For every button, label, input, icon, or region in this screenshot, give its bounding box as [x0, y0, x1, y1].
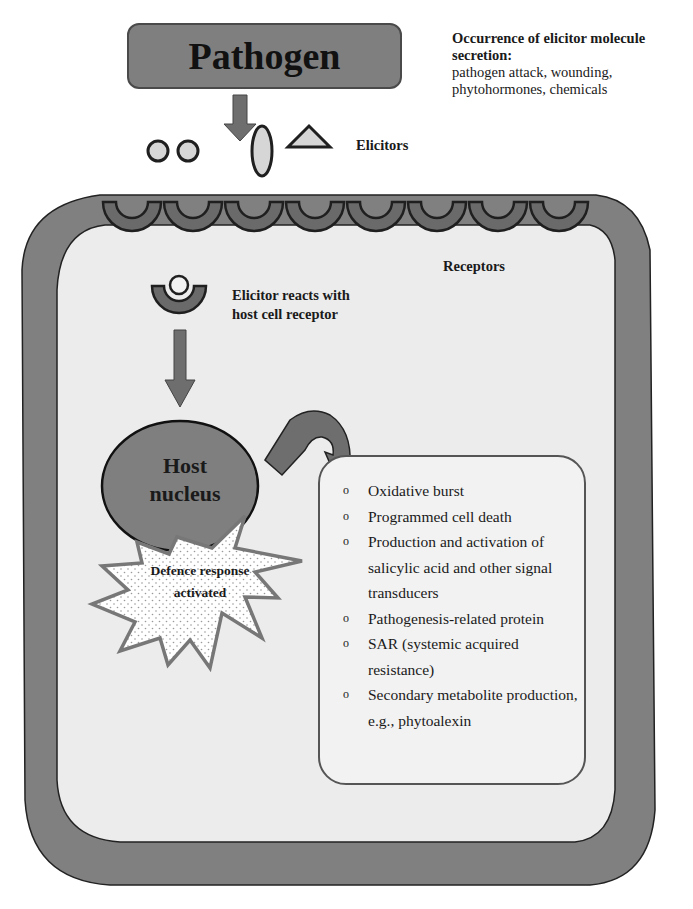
- defence-label: Defence response activated: [150, 560, 250, 604]
- elicitor-circle-icon: [178, 141, 198, 161]
- bullet-circle-icon: o: [343, 529, 349, 555]
- occurrence-title: Occurrence of elicitor molecule secretio…: [452, 30, 692, 64]
- pathogen-box: Pathogen: [127, 23, 402, 89]
- elicitor-ellipse-icon: [252, 126, 272, 176]
- response-item: oSecondary metabolite production, e.g., …: [340, 682, 580, 733]
- bullet-circle-icon: o: [343, 504, 349, 530]
- response-item: oSAR (systemic acquired resistance): [340, 631, 580, 682]
- receptors-label: Receptors: [443, 258, 505, 275]
- bullet-circle-icon: o: [343, 606, 349, 632]
- response-item: oOxidative burst: [340, 478, 580, 504]
- pathogen-label: Pathogen: [189, 34, 341, 78]
- elicitor-triangle-icon: [288, 126, 330, 147]
- elicitor-circle-icon: [148, 141, 168, 161]
- bullet-circle-icon: o: [343, 631, 349, 657]
- bullet-circle-icon: o: [343, 682, 349, 708]
- response-list: oOxidative burst oProgrammed cell death …: [340, 478, 580, 733]
- bullet-circle-icon: o: [343, 478, 349, 504]
- response-item: oProduction and activation of salicylic …: [340, 529, 580, 606]
- reaction-label: Elicitor reacts with host cell receptor: [232, 286, 352, 324]
- arrow-down-icon: [224, 95, 256, 141]
- nucleus-label: Host nucleus: [125, 452, 245, 508]
- elicitors-label: Elicitors: [356, 137, 408, 154]
- occurrence-body: pathogen attack, wounding, phytohormones…: [452, 64, 692, 98]
- response-item: oPathogenesis-related protein: [340, 606, 580, 632]
- response-item: oProgrammed cell death: [340, 504, 580, 530]
